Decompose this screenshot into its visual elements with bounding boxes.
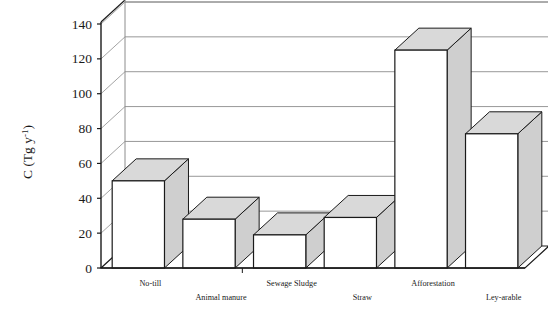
y-tick-label-20: 20 [79,226,93,241]
category-label-2: Animal manure [195,293,247,302]
y-tick-label-140: 140 [72,17,93,32]
bar-front-face [324,217,376,268]
chart-container: 020406080100120140C (Tg y-1)No-tillAnima… [0,0,548,310]
bars-group [112,28,542,268]
y-tick-label-100: 100 [72,86,93,101]
bar-front-face [395,50,447,268]
bar-6 [466,112,542,268]
category-label-4: Straw [353,293,372,302]
bar-front-face [112,181,164,268]
bar-front-face [183,219,235,268]
bar-5 [395,28,471,268]
bar-side-face [518,112,542,268]
y-tick-label-120: 120 [72,51,93,66]
bar-front-face [466,134,518,268]
y-axis-title: C (Tg y-1) [20,125,35,179]
y-tick-label-40: 40 [79,191,93,206]
y-tick-label-80: 80 [79,121,93,136]
backwall-left-top-diagonal [101,0,125,22]
sidewall-diagonal-120 [101,37,125,59]
bar-chart-3d: 020406080100120140C (Tg y-1)No-tillAnima… [0,0,548,310]
bar-1 [112,159,188,268]
category-label-6: Ley-arable [486,293,522,302]
category-label-3: Sewage Sludge [267,279,318,288]
y-tick-label-0: 0 [85,261,92,276]
sidewall-diagonal-140 [101,2,125,24]
sidewall-diagonal-100 [101,72,125,94]
bar-front-face [254,235,306,268]
y-tick-label-60: 60 [79,156,93,171]
bar-4 [324,195,400,268]
category-label-1: No-till [139,279,162,288]
sidewall-diagonal-60 [101,141,125,163]
category-label-5: Afforestation [411,279,455,288]
sidewall-diagonal-80 [101,107,125,129]
